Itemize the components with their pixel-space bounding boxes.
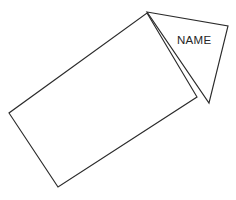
name-label: NAME <box>177 34 211 46</box>
diagram-canvas: NAME <box>0 0 236 200</box>
shape-diagram: NAME <box>0 0 236 200</box>
